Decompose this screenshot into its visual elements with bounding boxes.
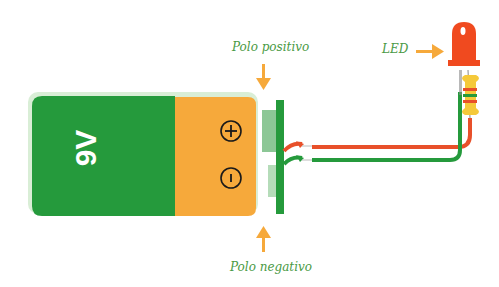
led-label: LED bbox=[382, 42, 408, 56]
led-arrow bbox=[416, 44, 444, 59]
battery-clip-board bbox=[276, 100, 284, 214]
negative-pole-label: Polo negativo bbox=[230, 260, 312, 274]
positive-pole-label: Polo positivo bbox=[232, 40, 309, 54]
negative-pole-arrow bbox=[256, 226, 271, 252]
positive-pole-arrow bbox=[256, 64, 271, 90]
green-wire bbox=[312, 92, 460, 160]
battery-voltage-label: 9V bbox=[46, 118, 126, 178]
positive-pad bbox=[262, 110, 276, 152]
battery-terminal-cap bbox=[175, 97, 256, 216]
negative-pad bbox=[268, 165, 276, 197]
red-wire bbox=[312, 118, 470, 147]
